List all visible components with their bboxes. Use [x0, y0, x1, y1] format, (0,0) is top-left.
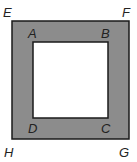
- square-diagram: E F G H A B C D: [0, 0, 137, 162]
- label-f: F: [122, 5, 131, 20]
- label-h: H: [4, 145, 14, 160]
- label-b: B: [101, 26, 110, 41]
- label-a: A: [27, 26, 37, 41]
- label-g: G: [119, 145, 129, 160]
- label-e: E: [3, 5, 12, 20]
- label-c: C: [101, 121, 111, 136]
- label-d: D: [28, 121, 37, 136]
- inner-square-abcd: [33, 42, 108, 118]
